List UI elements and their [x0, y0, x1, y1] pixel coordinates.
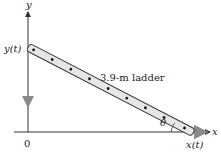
x-of-t-label: x(t) — [186, 139, 204, 150]
y-axis-label: y — [25, 0, 32, 10]
ladder-diagram: y y(t) 3.9-m ladder θ 0 x(t) x — [0, 0, 221, 155]
ladder — [26, 44, 195, 137]
x-axis-label: x — [212, 126, 218, 137]
angle-label: θ — [160, 117, 166, 128]
origin-label: 0 — [24, 138, 30, 149]
y-of-t-label: y(t) — [3, 43, 22, 54]
ladder-label: 3.9-m ladder — [100, 72, 165, 83]
